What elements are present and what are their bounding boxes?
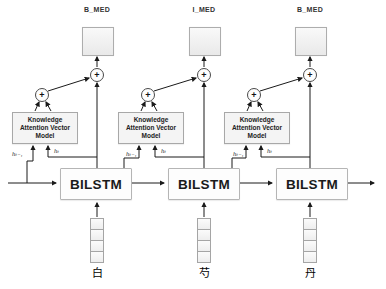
knowledge-box-line1: Knowledge (119, 116, 183, 124)
embedding-vector-stack (197, 218, 211, 263)
embedding-vector-stack (303, 218, 317, 263)
output-vector-box (295, 27, 327, 56)
embedding-cell (197, 251, 211, 263)
bilstm-box: BILSTM (276, 168, 348, 200)
knowledge-attention-model-box: Knowledge Attention Vector Model (224, 112, 290, 144)
output-vector-box (82, 27, 114, 56)
sum-node-icon: + (35, 88, 49, 102)
sum-node-icon: + (197, 68, 211, 82)
embedding-cell (303, 251, 317, 263)
sum-node-icon: + (90, 68, 104, 82)
sum-node-icon: + (247, 88, 261, 102)
knowledge-attention-model-box: Knowledge Attention Vector Model (118, 112, 184, 144)
hidden-state-label: hₜ (161, 147, 166, 155)
knowledge-box-line3: Model (119, 132, 183, 140)
knowledge-attention-model-box: Knowledge Attention Vector Model (12, 112, 78, 144)
bilstm-attention-diagram: B_MED + + Knowledge Attention Vector Mod… (0, 0, 386, 289)
output-tag-label: B_MED (65, 6, 129, 13)
bilstm-box: BILSTM (168, 168, 240, 200)
knowledge-box-line2: Attention Vector (225, 124, 289, 132)
input-character-label: 丹 (295, 264, 325, 280)
hidden-state-label: hₜ (54, 147, 59, 155)
knowledge-box-line2: Attention Vector (13, 124, 77, 132)
output-tag-label: B_MED (278, 6, 342, 13)
input-character-label: 白 (82, 264, 112, 280)
input-character-label: 芍 (189, 264, 219, 280)
knowledge-box-line3: Model (225, 132, 289, 140)
sum-node-icon: + (303, 68, 317, 82)
hidden-state-prev-label: hₜ₋₁ (233, 150, 244, 158)
sum-node-icon: + (141, 88, 155, 102)
knowledge-box-line1: Knowledge (13, 116, 77, 124)
hidden-state-prev-label: hₜ₋₁ (126, 150, 137, 158)
knowledge-box-line3: Model (13, 132, 77, 140)
knowledge-box-line2: Attention Vector (119, 124, 183, 132)
embedding-vector-stack (90, 218, 104, 263)
bilstm-box: BILSTM (60, 168, 132, 200)
hidden-state-label: hₜ (267, 147, 272, 155)
embedding-cell (90, 251, 104, 263)
output-tag-label: I_MED (172, 6, 236, 13)
knowledge-box-line1: Knowledge (225, 116, 289, 124)
hidden-state-prev-label: hₜ₋₁ (12, 150, 23, 158)
output-vector-box (189, 27, 221, 56)
